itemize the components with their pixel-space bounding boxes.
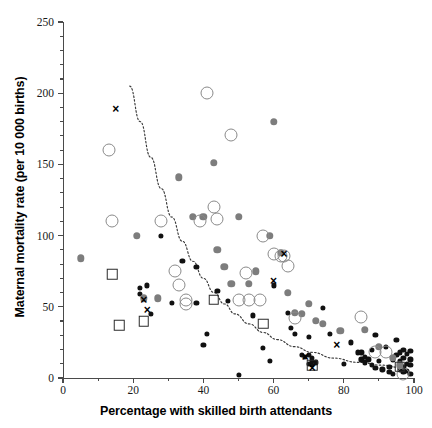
data-point — [361, 326, 368, 333]
x-tick-90 — [378, 378, 379, 381]
data-point — [260, 346, 265, 351]
y-tick-60 — [60, 292, 63, 293]
data-point — [395, 361, 406, 372]
x-tick-80 — [343, 378, 344, 383]
scatter-plot-figure: 020406080100 050100150200250 ×××××××× Pe… — [0, 0, 432, 428]
data-point — [245, 280, 252, 287]
data-point — [292, 331, 297, 336]
data-point — [138, 316, 149, 327]
x-tick-label-80: 80 — [338, 384, 350, 396]
data-point: × — [268, 276, 279, 287]
data-point — [305, 300, 312, 307]
x-tick-60 — [273, 378, 274, 383]
data-point: × — [279, 249, 290, 260]
x-axis-title: Percentage with skilled birth attendants — [0, 404, 432, 418]
data-point — [133, 232, 140, 239]
data-point — [145, 283, 150, 288]
y-tick-130 — [60, 192, 63, 193]
y-tick-180 — [60, 121, 63, 122]
data-point — [284, 289, 291, 296]
data-point — [373, 333, 378, 338]
data-point — [180, 259, 185, 264]
data-point — [320, 306, 325, 311]
data-point — [154, 295, 161, 302]
x-tick-label-0: 0 — [60, 384, 66, 396]
data-point — [138, 286, 143, 291]
data-point — [215, 289, 220, 294]
data-point — [373, 365, 378, 370]
data-point — [214, 246, 221, 253]
y-tick-150 — [58, 164, 63, 165]
data-point — [179, 297, 192, 310]
y-axis-title: Maternal mortality rate (per 10 000 birt… — [13, 27, 27, 367]
data-point — [107, 269, 118, 280]
x-tick-100 — [413, 378, 414, 383]
x-tick-40 — [203, 378, 204, 383]
y-tick-200 — [58, 93, 63, 94]
x-tick-label-100: 100 — [405, 384, 422, 396]
y-tick-100 — [58, 235, 63, 236]
data-point: × — [307, 363, 318, 374]
data-point: × — [142, 304, 153, 315]
y-tick-20 — [60, 349, 63, 350]
data-point — [257, 229, 270, 242]
x-tick-label-20: 20 — [127, 384, 139, 396]
data-point — [193, 215, 206, 228]
data-point — [175, 174, 182, 181]
data-point — [289, 326, 294, 331]
data-point — [306, 334, 311, 339]
y-tick-140 — [60, 178, 63, 179]
data-point — [235, 213, 242, 220]
y-tick-120 — [60, 207, 63, 208]
y-tick-220 — [60, 64, 63, 65]
data-point — [394, 337, 399, 342]
x-tick-0 — [62, 378, 63, 383]
y-tick-70 — [60, 278, 63, 279]
x-tick-70 — [308, 378, 309, 381]
x-tick-10 — [98, 378, 99, 381]
data-point — [253, 293, 266, 306]
data-point — [114, 320, 125, 331]
data-point — [319, 320, 326, 327]
data-point — [341, 361, 346, 366]
data-point — [169, 265, 182, 278]
data-point — [376, 358, 381, 363]
x-tick-label-60: 60 — [268, 384, 280, 396]
data-point — [172, 279, 185, 292]
data-point — [281, 259, 294, 272]
data-point — [204, 331, 209, 336]
y-tick-50 — [58, 306, 63, 307]
y-tick-40 — [60, 320, 63, 321]
data-point — [355, 310, 368, 323]
data-point — [387, 364, 392, 369]
data-point — [401, 355, 406, 360]
data-point — [194, 300, 199, 305]
y-tick-170 — [60, 135, 63, 136]
data-point — [366, 357, 371, 362]
data-point — [225, 299, 230, 304]
data-point — [390, 371, 395, 376]
data-point — [77, 255, 84, 262]
y-tick-240 — [60, 36, 63, 37]
data-point — [211, 212, 224, 225]
y-tick-80 — [60, 264, 63, 265]
y-tick-10 — [60, 363, 63, 364]
data-point — [327, 331, 332, 336]
y-axis-line — [63, 22, 64, 378]
data-point — [288, 312, 301, 325]
data-point — [225, 128, 238, 141]
data-point — [194, 264, 199, 269]
data-point: × — [110, 103, 121, 114]
data-point — [221, 263, 228, 270]
y-tick-label-0: 0 — [14, 372, 54, 384]
y-tick-210 — [60, 78, 63, 79]
x-tick-label-40: 40 — [198, 384, 210, 396]
data-point — [408, 348, 413, 353]
data-point — [267, 358, 272, 363]
data-point — [159, 233, 164, 238]
data-point — [337, 327, 344, 334]
y-tick-30 — [60, 335, 63, 336]
data-point — [270, 118, 277, 125]
y-tick-230 — [60, 50, 63, 51]
y-tick-0 — [58, 377, 63, 378]
